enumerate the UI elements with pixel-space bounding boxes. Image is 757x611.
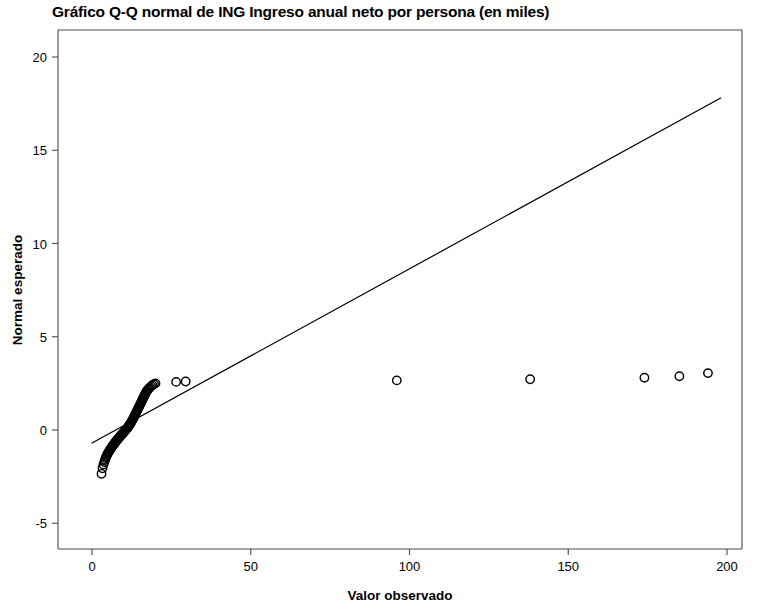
x-tick-label-100: 100: [399, 559, 421, 574]
y-tick-label-5: 5: [40, 330, 47, 345]
data-point: [526, 375, 534, 383]
x-axis-tick-labels: 050100150200: [88, 559, 737, 574]
x-tick-label-50: 50: [244, 559, 258, 574]
x-tick-label-150: 150: [557, 559, 579, 574]
y-axis-title: Normal esperado: [10, 235, 25, 345]
data-point: [181, 377, 189, 385]
y-tick-label-15: 15: [33, 143, 47, 158]
y-axis-ticks: [52, 57, 58, 523]
reference-line: [92, 98, 721, 443]
y-tick-label-0: 0: [40, 423, 47, 438]
y-tick-label-20: 20: [33, 50, 47, 65]
x-axis-ticks: [92, 549, 727, 555]
x-tick-label-200: 200: [716, 559, 738, 574]
plot-frame: [58, 30, 742, 549]
qq-plot-figure: Gráfico Q-Q normal de ING Ingreso anual …: [0, 0, 757, 611]
qq-plot-svg: Gráfico Q-Q normal de ING Ingreso anual …: [0, 0, 757, 611]
y-tick-label-10: 10: [33, 237, 47, 252]
x-axis-title: Valor observado: [347, 588, 452, 603]
data-point: [704, 369, 712, 377]
y-axis-tick-labels: -505101520: [33, 50, 47, 531]
chart-title: Gráfico Q-Q normal de ING Ingreso anual …: [52, 3, 549, 20]
data-point-series: [97, 369, 712, 478]
data-point: [172, 378, 180, 386]
data-point: [640, 374, 648, 382]
data-point: [675, 372, 683, 380]
x-tick-label-0: 0: [88, 559, 95, 574]
data-point: [393, 376, 401, 384]
y-tick-label--5: -5: [35, 516, 47, 531]
normal-reference-line: [92, 98, 721, 443]
